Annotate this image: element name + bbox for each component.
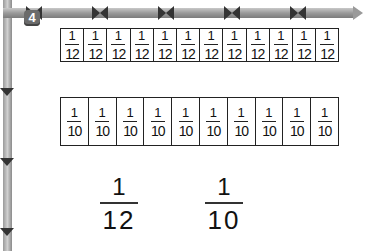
fraction-bar xyxy=(88,44,102,45)
fraction-cell: 112 xyxy=(293,29,316,61)
denominator: 10 xyxy=(68,124,82,138)
fraction-cell: 112 xyxy=(84,29,107,61)
numerator: 1 xyxy=(324,29,331,42)
fraction-bar xyxy=(227,44,241,45)
fraction-cell: 112 xyxy=(223,29,246,61)
denominator: 10 xyxy=(207,124,221,138)
denominator: 12 xyxy=(320,47,334,61)
denominator: 12 xyxy=(228,47,242,61)
fraction-cell: 110 xyxy=(172,98,200,145)
fraction-bar xyxy=(320,44,334,45)
numerator: 1 xyxy=(231,29,238,42)
denominator: 12 xyxy=(88,47,102,61)
denominator: 12 xyxy=(135,47,149,61)
fraction-bar xyxy=(135,44,149,45)
frame-arrow-icon xyxy=(353,6,363,20)
fraction-cell: 112 xyxy=(61,29,84,61)
fraction-bar xyxy=(123,121,137,122)
denominator: 10 xyxy=(234,124,248,138)
numerator: 1 xyxy=(115,29,122,42)
frame-vertical-bar xyxy=(3,0,12,251)
fraction-cell: 110 xyxy=(200,98,228,145)
denominator: 12 xyxy=(251,47,265,61)
fraction-bar xyxy=(204,44,218,45)
twelfths-fraction-strip: 112 112 112 112 112 112 112 112 112 112 … xyxy=(60,28,339,62)
numerator: 1 xyxy=(182,106,189,119)
fraction-cell: 112 xyxy=(200,29,223,61)
problem-number-badge: 4 xyxy=(24,10,40,26)
fraction-bar xyxy=(262,121,276,122)
fraction-bar xyxy=(158,44,172,45)
fraction-bar xyxy=(95,121,109,122)
fraction-bar xyxy=(318,121,332,122)
fraction-bar xyxy=(65,44,79,45)
denominator: 10 xyxy=(123,124,137,138)
fraction-bar xyxy=(234,121,248,122)
denominator: 12 xyxy=(158,47,172,61)
fraction-one-tenth: 1 10 xyxy=(205,175,243,233)
numerator: 1 xyxy=(300,29,307,42)
numerator: 1 xyxy=(161,29,168,42)
fraction-cell: 110 xyxy=(256,98,284,145)
fraction-cell: 110 xyxy=(144,98,172,145)
denominator: 10 xyxy=(262,124,276,138)
fraction-cell: 110 xyxy=(283,98,311,145)
fraction-bar xyxy=(111,44,125,45)
denominator: 10 xyxy=(208,207,241,233)
numerator: 1 xyxy=(277,29,284,42)
fraction-bar xyxy=(181,44,195,45)
numerator: 1 xyxy=(210,106,217,119)
denominator: 12 xyxy=(204,47,218,61)
fraction-cell: 112 xyxy=(177,29,200,61)
fraction-one-twelfth: 1 12 xyxy=(100,175,138,233)
denominator: 10 xyxy=(318,124,332,138)
denominator: 10 xyxy=(290,124,304,138)
numerator: 1 xyxy=(208,29,215,42)
fraction-bar xyxy=(179,121,193,122)
numerator: 1 xyxy=(321,106,328,119)
numerator: 1 xyxy=(238,106,245,119)
numerator: 1 xyxy=(254,29,261,42)
fraction-cell: 112 xyxy=(270,29,293,61)
fraction-bar xyxy=(290,121,304,122)
numerator: 1 xyxy=(154,106,161,119)
numerator: 1 xyxy=(112,175,125,199)
fraction-cell: 110 xyxy=(89,98,117,145)
denominator: 12 xyxy=(181,47,195,61)
numerator: 1 xyxy=(92,29,99,42)
fraction-cell: 112 xyxy=(154,29,177,61)
fraction-bar xyxy=(67,121,81,122)
fraction-cell: 110 xyxy=(311,98,338,145)
fraction-bar xyxy=(206,121,220,122)
numerator: 1 xyxy=(138,29,145,42)
fraction-cell: 110 xyxy=(228,98,256,145)
denominator: 10 xyxy=(179,124,193,138)
fraction-cell: 112 xyxy=(247,29,270,61)
denominator: 12 xyxy=(112,47,126,61)
numerator: 1 xyxy=(217,175,230,199)
denominator: 12 xyxy=(65,47,79,61)
denominator: 10 xyxy=(151,124,165,138)
numerator: 1 xyxy=(184,29,191,42)
fraction-cell: 112 xyxy=(107,29,130,61)
fraction-bar xyxy=(100,202,138,204)
numerator: 1 xyxy=(293,106,300,119)
fraction-bar xyxy=(297,44,311,45)
numerator: 1 xyxy=(265,106,272,119)
numerator: 1 xyxy=(126,106,133,119)
denominator: 12 xyxy=(103,207,136,233)
numerator: 1 xyxy=(68,29,75,42)
denominator: 12 xyxy=(297,47,311,61)
fraction-cell: 110 xyxy=(117,98,145,145)
fraction-cell: 112 xyxy=(131,29,154,61)
numerator: 1 xyxy=(99,106,106,119)
fraction-bar xyxy=(205,202,243,204)
fraction-bar xyxy=(151,121,165,122)
fraction-bar xyxy=(274,44,288,45)
denominator: 10 xyxy=(95,124,109,138)
numerator: 1 xyxy=(71,106,78,119)
tenths-fraction-strip: 110 110 110 110 110 110 110 110 110 110 xyxy=(60,97,339,146)
fraction-cell: 112 xyxy=(316,29,338,61)
denominator: 12 xyxy=(274,47,288,61)
fraction-bar xyxy=(251,44,265,45)
